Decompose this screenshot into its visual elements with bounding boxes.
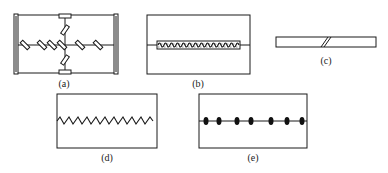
panel-c-bar <box>276 37 376 47</box>
panel-d-label: (d) <box>101 152 113 164</box>
panel-b <box>147 15 250 74</box>
panel-a <box>14 14 118 74</box>
panel-c-label: (c) <box>320 55 331 67</box>
panel-d <box>57 94 157 148</box>
panel-a-bottom-bracket <box>59 70 71 74</box>
panel-c <box>276 37 376 47</box>
panel-a-top-bracket <box>59 14 71 18</box>
figure-canvas: (a) (b) (c) (d) (e) <box>0 0 388 173</box>
panel-b-label: (b) <box>192 78 204 90</box>
panel-a-frame <box>16 15 116 73</box>
panel-a-label: (a) <box>58 78 69 90</box>
panel-e <box>199 94 307 148</box>
panel-e-label: (e) <box>247 152 258 164</box>
panel-d-zigzag-member <box>57 117 153 124</box>
